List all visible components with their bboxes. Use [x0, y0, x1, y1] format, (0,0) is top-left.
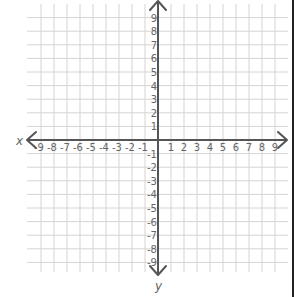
y-tick-label: 7 — [151, 40, 157, 51]
y-tick-label: -7 — [147, 230, 157, 241]
y-tick-label: -8 — [147, 244, 157, 255]
right-border — [292, 0, 294, 297]
x-tick-label: -3 — [112, 142, 122, 153]
y-tick-label: -2 — [147, 162, 157, 173]
x-tick-label: -8 — [47, 142, 57, 153]
y-tick-label: 4 — [151, 81, 157, 92]
x-tick-label: -9 — [34, 142, 44, 153]
y-tick-label: 2 — [151, 108, 157, 119]
y-tick-label: 8 — [151, 26, 157, 37]
y-tick-label: -1 — [147, 149, 157, 160]
y-tick-label: -9 — [147, 257, 157, 268]
x-tick-label: -4 — [99, 142, 109, 153]
coordinate-plane-svg: -9-8-7-6-5-4-3-2-1123456789 987654321-1-… — [0, 0, 302, 297]
y-tick-label: -4 — [147, 189, 157, 200]
x-tick-label: 3 — [194, 142, 200, 153]
x-tick-label: -7 — [60, 142, 70, 153]
y-tick-label: 5 — [151, 67, 157, 78]
x-tick-label: 7 — [246, 142, 252, 153]
x-tick-label: 2 — [181, 142, 187, 153]
x-tick-label: -2 — [125, 142, 135, 153]
x-tick-label: 8 — [259, 142, 265, 153]
y-axis-label: y — [154, 279, 163, 293]
x-tick-label: 1 — [168, 142, 174, 153]
axes — [27, 1, 287, 275]
x-tick-label: 4 — [207, 142, 213, 153]
x-tick-label: 9 — [272, 142, 278, 153]
x-tick-label: 5 — [220, 142, 226, 153]
y-tick-label: -6 — [147, 217, 157, 228]
y-tick-label: 9 — [151, 13, 157, 24]
x-axis-label: x — [15, 134, 24, 148]
y-tick-label: -5 — [147, 203, 157, 214]
y-tick-label: 3 — [151, 94, 157, 105]
y-tick-label: 6 — [151, 53, 157, 64]
x-tick-label: -6 — [73, 142, 83, 153]
x-tick-label: -5 — [86, 142, 96, 153]
y-tick-label: 1 — [151, 121, 157, 132]
x-tick-label: 6 — [233, 142, 239, 153]
y-tick-label: -3 — [147, 176, 157, 187]
